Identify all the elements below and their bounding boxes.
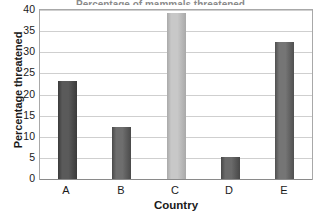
bar-d [221, 157, 240, 179]
bar-b [112, 127, 131, 179]
bar-a [58, 81, 77, 179]
bar-e [275, 42, 294, 179]
gridline [40, 10, 312, 11]
x-tick-label-c: C [171, 184, 179, 196]
x-axis-tick-labels: ABCDE [39, 184, 313, 198]
y-tick-label: 40 [7, 4, 35, 14]
y-tick-label: 0 [7, 173, 35, 183]
chart-screenshot: Percentage of mammals threatened Percent… [0, 0, 321, 216]
gridline [40, 179, 312, 180]
x-tick-label-e: E [280, 184, 287, 196]
y-tick-label: 25 [7, 67, 35, 77]
y-tick-label: 30 [7, 46, 35, 56]
x-axis-label: Country [39, 199, 313, 211]
x-tick-label-d: D [225, 184, 233, 196]
y-tick-label: 15 [7, 110, 35, 120]
bar-c [167, 13, 186, 179]
y-axis-tick-labels: 0510152025303540 [0, 9, 35, 180]
plot-area [39, 9, 313, 180]
y-tick-label: 35 [7, 25, 35, 35]
y-tick-label: 5 [7, 152, 35, 162]
y-tick-label: 10 [7, 131, 35, 141]
x-tick-label-b: B [117, 184, 124, 196]
chart-title-cutoff: Percentage of mammals threatened [0, 0, 321, 5]
y-tick-label: 20 [7, 89, 35, 99]
x-tick-label-a: A [62, 184, 69, 196]
